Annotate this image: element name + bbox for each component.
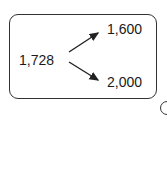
lower-arrow-icon: [69, 62, 98, 80]
partial-circle-icon: [160, 101, 167, 115]
upper-arrow-icon: [69, 33, 98, 52]
arrows: [0, 0, 167, 169]
